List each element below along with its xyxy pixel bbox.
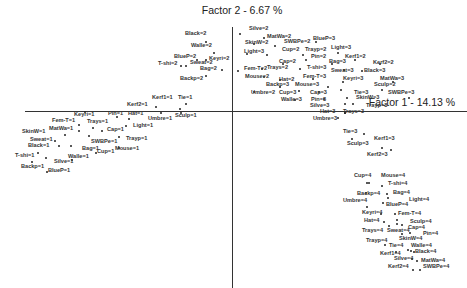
data-point-label: Tie=4 bbox=[389, 243, 403, 249]
data-point-marker bbox=[384, 244, 386, 246]
data-point-marker bbox=[305, 59, 307, 61]
data-point-label: Trays=2 bbox=[267, 65, 288, 71]
data-point-marker bbox=[352, 103, 354, 105]
data-point-label: Black=3 bbox=[364, 68, 385, 74]
data-point-marker bbox=[410, 250, 412, 252]
data-point-marker bbox=[78, 124, 80, 126]
data-point-label: Cap=3 bbox=[310, 90, 327, 96]
data-point-marker bbox=[387, 197, 389, 199]
data-point-label: Bag=4 bbox=[393, 190, 410, 196]
data-point-label: Cup=1 bbox=[97, 149, 114, 155]
data-point-label: Trayp=1 bbox=[126, 136, 147, 142]
data-point-marker bbox=[205, 75, 207, 77]
data-point-marker bbox=[340, 89, 342, 91]
data-point-label: Walle=2 bbox=[191, 43, 212, 49]
data-point-marker bbox=[368, 182, 370, 184]
data-point-label: Bag=3 bbox=[329, 59, 346, 65]
data-point-label: Trayp=2 bbox=[305, 47, 326, 53]
data-point-marker bbox=[101, 130, 103, 132]
data-point-label: Cup=2 bbox=[282, 47, 299, 53]
data-point-marker bbox=[185, 65, 187, 67]
data-point-marker bbox=[298, 90, 300, 92]
data-point-marker bbox=[337, 117, 339, 119]
data-point-marker bbox=[302, 54, 304, 56]
data-point-marker bbox=[409, 232, 411, 234]
data-point-marker bbox=[155, 106, 157, 108]
data-point-label: Hat=3 bbox=[320, 109, 335, 115]
data-point-marker bbox=[37, 152, 39, 154]
data-point-label: Keyri=3 bbox=[343, 76, 363, 82]
data-point-marker bbox=[386, 193, 388, 195]
data-point-marker bbox=[383, 221, 385, 223]
data-point-marker bbox=[407, 249, 409, 251]
data-point-label: Kerf1=2 bbox=[345, 54, 366, 60]
data-point-marker bbox=[221, 69, 223, 71]
data-point-label: Cup=3 bbox=[279, 90, 296, 96]
factor-2-axis-line bbox=[232, 27, 233, 288]
data-point-label: Umbre=3 bbox=[313, 116, 337, 122]
data-point-marker bbox=[179, 108, 181, 110]
data-point-label: Keyri=4 bbox=[362, 210, 382, 216]
data-point-label: Silve=1 bbox=[54, 159, 73, 165]
data-point-label: SkinW=2 bbox=[245, 40, 268, 46]
data-point-label: Fem-T=3 bbox=[303, 74, 326, 80]
data-point-label: Mouse=3 bbox=[295, 82, 319, 88]
data-point-label: Keyri=1 bbox=[74, 112, 94, 118]
data-point-label: Kerf2=4 bbox=[388, 264, 409, 270]
data-point-label: MatWa=1 bbox=[49, 126, 73, 132]
data-point-marker bbox=[125, 125, 127, 127]
data-point-label: Hat=4 bbox=[364, 218, 379, 224]
data-point-label: Trays=4 bbox=[362, 228, 383, 234]
data-point-label: Light=1 bbox=[133, 123, 153, 129]
data-point-label: BlueP=1 bbox=[48, 168, 70, 174]
data-point-label: Umbre=4 bbox=[343, 198, 367, 204]
data-point-label: SWBPe=3 bbox=[388, 90, 414, 96]
data-point-label: Kerf1=1 bbox=[152, 95, 173, 101]
factor-scatter-plot: Factor 2 - 6.67 % Factor 1 - 14.13 % Bla… bbox=[0, 0, 467, 288]
data-point-label: Light=4 bbox=[409, 197, 429, 203]
data-point-marker bbox=[54, 140, 56, 142]
data-point-marker bbox=[88, 135, 90, 137]
data-point-marker bbox=[160, 112, 162, 114]
data-point-marker bbox=[416, 260, 418, 262]
data-point-marker bbox=[213, 52, 215, 54]
data-point-label: T-shi=2 bbox=[158, 61, 177, 67]
data-point-marker bbox=[346, 97, 348, 99]
data-point-marker bbox=[337, 52, 339, 54]
data-point-marker bbox=[363, 133, 365, 135]
data-point-marker bbox=[394, 213, 396, 215]
data-point-marker bbox=[381, 89, 383, 91]
data-point-label: Pin=1 bbox=[108, 111, 123, 117]
data-point-marker bbox=[396, 223, 398, 225]
data-point-label: Tie=1 bbox=[178, 95, 192, 101]
data-point-label: Mouse=2 bbox=[245, 74, 269, 80]
data-point-label: Pin=2 bbox=[311, 54, 326, 60]
data-point-label: Kerf2=3 bbox=[367, 152, 388, 158]
data-point-label: Trays=1 bbox=[87, 119, 108, 125]
data-point-marker bbox=[390, 149, 392, 151]
data-point-marker bbox=[45, 157, 47, 159]
data-point-label: Fem-T=2 bbox=[244, 66, 267, 72]
data-point-label: Backp=3 bbox=[266, 82, 289, 88]
data-point-marker bbox=[381, 147, 383, 149]
data-point-marker bbox=[327, 86, 329, 88]
data-point-label: Backp=2 bbox=[180, 76, 203, 82]
data-point-label: Hat=1 bbox=[128, 111, 143, 117]
data-point-label: Bag=2 bbox=[200, 66, 217, 72]
data-point-label: SkinW=3 bbox=[356, 95, 379, 101]
data-point-label: Fem-T=4 bbox=[398, 211, 421, 217]
data-point-label: SkinW=1 bbox=[22, 129, 45, 135]
data-point-label: T-shi=3 bbox=[307, 65, 326, 71]
factor-2-axis-label: Factor 2 - 6.67 % bbox=[202, 4, 283, 16]
data-point-label: Sweat=3 bbox=[331, 68, 354, 74]
data-point-marker bbox=[185, 103, 187, 105]
data-point-marker bbox=[70, 145, 72, 147]
data-point-label: Silve=4 bbox=[394, 256, 413, 262]
data-point-marker bbox=[58, 145, 60, 147]
data-point-label: Backp=1 bbox=[21, 164, 44, 170]
data-point-label: Cap=1 bbox=[107, 127, 124, 133]
data-point-label: Umbre=2 bbox=[251, 90, 275, 96]
data-point-label: Light=3 bbox=[331, 45, 351, 51]
data-point-label: Umbre=1 bbox=[148, 116, 172, 122]
data-point-label: Trayp=4 bbox=[366, 238, 387, 244]
